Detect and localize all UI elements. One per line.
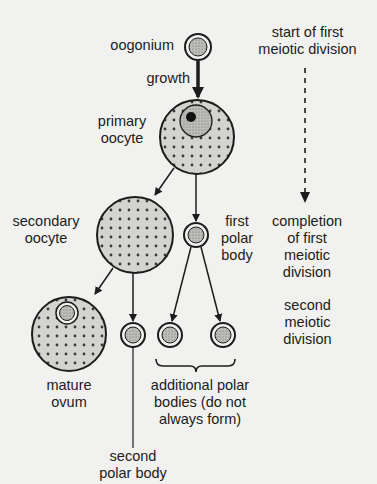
label-additional-1: additional polar (140, 377, 260, 394)
label-start-1: start of first (245, 24, 370, 41)
label-completion-2: of first (262, 230, 352, 247)
brace-icon (156, 359, 235, 372)
label-growth: growth (110, 70, 190, 87)
additional-polar-body-2 (211, 323, 235, 347)
mature-ovum-cell (32, 297, 106, 371)
label-first-polar-2: polar (212, 230, 262, 247)
arrow-to-secondary (155, 168, 174, 195)
label-start-2: meiotic division (245, 41, 370, 58)
label-completion-1: completion (262, 213, 352, 230)
label-secondary-2: oocyte (5, 230, 87, 247)
primary-oocyte-cell (160, 100, 234, 174)
label-first-polar-1: first (212, 213, 262, 230)
arrow-to-mature-ovum (95, 268, 113, 294)
label-second-div-3: division (265, 331, 350, 348)
label-oogonium: oogonium (90, 37, 174, 54)
label-second-div-2: meiotic (265, 314, 350, 331)
timeline-arrowhead (300, 192, 310, 203)
label-secondary-1: secondary (5, 213, 87, 230)
label-second-polar-2: polar body (88, 465, 178, 482)
label-completion-4: division (262, 264, 352, 281)
label-second-div-1: second (265, 297, 350, 314)
second-polar-body-cell (121, 323, 145, 347)
label-second-polar-1: second (88, 448, 178, 465)
label-mature-1: mature (29, 377, 109, 394)
label-primary-2: oocyte (82, 130, 162, 147)
label-completion-3: meiotic (262, 247, 352, 264)
label-first-polar-3: body (212, 247, 262, 264)
label-additional-3: always form) (140, 411, 260, 428)
label-mature-2: ovum (29, 394, 109, 411)
arrow-to-additional-1 (172, 247, 191, 321)
secondary-oocyte-cell (97, 197, 173, 273)
label-primary-1: primary (82, 113, 162, 130)
label-additional-2: bodies (do not (140, 394, 260, 411)
oogonium-cell (185, 34, 211, 60)
additional-polar-body-1 (158, 323, 182, 347)
first-polar-body-cell (184, 223, 208, 247)
